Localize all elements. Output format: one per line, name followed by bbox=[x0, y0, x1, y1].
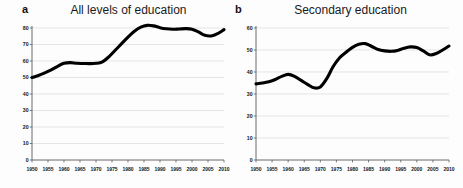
panel-a: a All levels of education 01020304050607… bbox=[0, 0, 231, 188]
svg-text:1960: 1960 bbox=[283, 166, 294, 172]
svg-text:1985: 1985 bbox=[363, 166, 374, 172]
svg-text:2005: 2005 bbox=[427, 166, 438, 172]
svg-text:1975: 1975 bbox=[331, 166, 342, 172]
svg-text:30: 30 bbox=[23, 107, 29, 113]
svg-text:40: 40 bbox=[23, 91, 29, 97]
svg-text:1955: 1955 bbox=[267, 166, 278, 172]
svg-text:50: 50 bbox=[23, 74, 29, 80]
svg-text:1965: 1965 bbox=[74, 166, 85, 172]
svg-text:1950: 1950 bbox=[26, 166, 37, 172]
svg-text:2000: 2000 bbox=[186, 166, 197, 172]
svg-text:10: 10 bbox=[247, 135, 253, 141]
svg-text:1990: 1990 bbox=[379, 166, 390, 172]
line-chart-a: 0102030405060708019501955196019651970197… bbox=[0, 0, 231, 188]
svg-text:80: 80 bbox=[23, 25, 29, 31]
svg-text:0: 0 bbox=[250, 157, 253, 163]
svg-text:1975: 1975 bbox=[106, 166, 117, 172]
series-line-a bbox=[32, 25, 224, 77]
svg-text:40: 40 bbox=[247, 69, 253, 75]
svg-text:1985: 1985 bbox=[138, 166, 149, 172]
svg-text:2005: 2005 bbox=[202, 166, 213, 172]
svg-text:2000: 2000 bbox=[411, 166, 422, 172]
svg-text:1965: 1965 bbox=[299, 166, 310, 172]
svg-text:1980: 1980 bbox=[122, 166, 133, 172]
svg-text:0: 0 bbox=[26, 157, 29, 163]
svg-text:1980: 1980 bbox=[347, 166, 358, 172]
svg-text:1970: 1970 bbox=[315, 166, 326, 172]
svg-text:20: 20 bbox=[247, 113, 253, 119]
svg-text:60: 60 bbox=[23, 58, 29, 64]
svg-text:1970: 1970 bbox=[90, 166, 101, 172]
panel-b: b Secondary education 010203040506019501… bbox=[231, 0, 462, 188]
svg-text:70: 70 bbox=[23, 41, 29, 47]
svg-text:1950: 1950 bbox=[250, 166, 261, 172]
svg-text:1960: 1960 bbox=[58, 166, 69, 172]
panel-b-plot: 0102030405060195019551960196519701975198… bbox=[231, 0, 462, 188]
svg-text:1990: 1990 bbox=[154, 166, 165, 172]
svg-text:1955: 1955 bbox=[42, 166, 53, 172]
svg-text:2010: 2010 bbox=[218, 166, 229, 172]
svg-text:20: 20 bbox=[23, 124, 29, 130]
svg-text:10: 10 bbox=[23, 140, 29, 146]
svg-text:50: 50 bbox=[247, 47, 253, 53]
svg-text:30: 30 bbox=[247, 91, 253, 97]
line-chart-b: 0102030405060195019551960196519701975198… bbox=[231, 0, 462, 188]
svg-text:1995: 1995 bbox=[395, 166, 406, 172]
panel-a-plot: 0102030405060708019501955196019651970197… bbox=[0, 0, 231, 188]
svg-text:1995: 1995 bbox=[170, 166, 181, 172]
figure-container: a All levels of education 01020304050607… bbox=[0, 0, 463, 188]
svg-text:60: 60 bbox=[247, 25, 253, 31]
svg-text:2010: 2010 bbox=[443, 166, 454, 172]
